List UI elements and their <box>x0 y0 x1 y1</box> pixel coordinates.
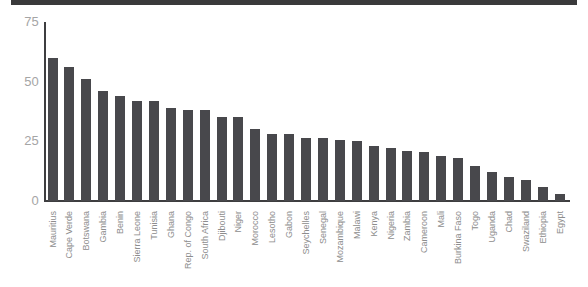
bar <box>98 91 108 201</box>
bar <box>555 194 565 201</box>
y-axis-line <box>44 22 46 202</box>
bar <box>386 148 396 201</box>
bar <box>335 140 345 201</box>
bar <box>453 158 463 201</box>
bar <box>521 180 531 201</box>
bar <box>470 166 480 201</box>
bar <box>200 110 210 201</box>
bar <box>318 138 328 201</box>
bar <box>369 146 379 201</box>
bar <box>233 117 243 201</box>
bar <box>504 177 514 201</box>
bar <box>487 172 497 201</box>
y-tick-label: 0 <box>9 194 39 207</box>
bar-chart: 0255075 MauritiusCape VerdeBotswanaGambi… <box>0 0 588 287</box>
bar <box>132 101 142 201</box>
bar <box>64 67 74 201</box>
bar <box>419 152 429 201</box>
bar <box>166 108 176 201</box>
bar <box>250 129 260 201</box>
bar <box>149 101 159 201</box>
y-tick-label: 25 <box>9 134 39 147</box>
bar <box>352 141 362 201</box>
bar <box>301 138 311 201</box>
bar <box>81 79 91 201</box>
y-tick-label: 75 <box>9 15 39 28</box>
bar <box>538 187 548 201</box>
bar <box>436 156 446 201</box>
bar <box>267 134 277 201</box>
bar <box>183 110 193 201</box>
bar <box>217 117 227 201</box>
bar <box>284 134 294 201</box>
y-tick-label: 50 <box>9 75 39 88</box>
bar <box>402 151 412 201</box>
screenshot-root: { "header": { "band_color": "#3a3a3b" },… <box>0 0 588 287</box>
bar <box>115 96 125 201</box>
bar <box>48 58 58 201</box>
